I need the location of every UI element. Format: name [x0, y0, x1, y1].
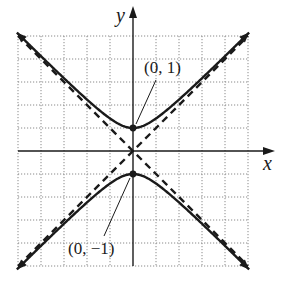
y-axis-arrow-icon [129, 6, 137, 18]
x-axis-label: x [262, 152, 272, 174]
leader-lines [104, 80, 156, 236]
vertex-point [130, 171, 137, 178]
vertex-point [130, 125, 137, 132]
hyperbola-plot: y x (0, 1) (0, −1) [0, 0, 283, 283]
vertex-top-label: (0, 1) [144, 58, 181, 77]
leader-line-bottom [104, 178, 130, 236]
vertex-bottom-label: (0, −1) [68, 239, 114, 258]
leader-line-top [136, 80, 156, 124]
y-axis-label: y [114, 4, 125, 27]
